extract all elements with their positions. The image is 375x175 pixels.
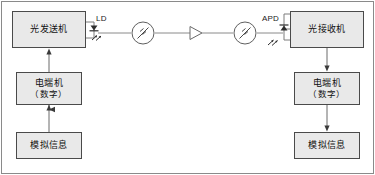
node-analog-signal-left[interactable]: 模拟信息 bbox=[16, 132, 82, 159]
apd-label: APD bbox=[262, 14, 279, 23]
ld-label: LD bbox=[96, 14, 107, 23]
wire-receiver-to-terminal-right bbox=[324, 48, 329, 72]
node-optical-receiver-label: 光接收机 bbox=[308, 24, 345, 35]
wire-terminal-to-transmitter-left bbox=[46, 49, 51, 73]
node-terminal-left[interactable]: 电端机 （数字） bbox=[16, 72, 82, 105]
node-optical-receiver[interactable]: 光接收机 bbox=[290, 11, 364, 48]
node-terminal-right-line1: 电端机 bbox=[313, 78, 341, 89]
node-terminal-left-line1: 电端机 bbox=[35, 78, 63, 89]
node-terminal-left-line2: （数字） bbox=[30, 89, 67, 100]
node-analog-signal-left-label: 模拟信息 bbox=[30, 140, 67, 151]
diagram-canvas: 光发送机 光接收机 电端机 （数字） 电端机 （数字） 模拟信息 模拟信息 LD… bbox=[0, 0, 375, 175]
node-optical-transmitter-label: 光发送机 bbox=[30, 24, 67, 35]
ld-connection-leads bbox=[86, 22, 94, 38]
optical-connector-left-icon bbox=[132, 22, 154, 44]
node-analog-signal-right[interactable]: 模拟信息 bbox=[294, 132, 360, 159]
node-terminal-right-line2: （数字） bbox=[308, 89, 345, 100]
wire-analog-to-terminal-left bbox=[46, 104, 51, 132]
optical-connector-right-icon bbox=[234, 22, 256, 44]
node-analog-signal-right-label: 模拟信息 bbox=[308, 140, 345, 151]
wire-terminal-to-analog-right bbox=[324, 105, 329, 132]
avalanche-photodiode-icon bbox=[268, 25, 289, 46]
node-terminal-right[interactable]: 电端机 （数字） bbox=[294, 72, 360, 105]
optical-repeater-icon bbox=[190, 27, 202, 40]
node-optical-transmitter[interactable]: 光发送机 bbox=[12, 11, 86, 48]
